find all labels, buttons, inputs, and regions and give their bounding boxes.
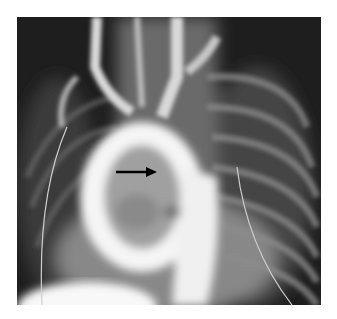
- radiograph-image: [17, 17, 321, 305]
- radiograph-svg: [17, 17, 321, 305]
